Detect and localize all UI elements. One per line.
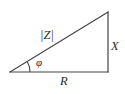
horizontal-leg-label: R — [59, 74, 68, 88]
impedance-triangle-figure: |Z| X R φ — [0, 0, 125, 94]
vertical-leg-label: X — [110, 39, 120, 53]
angle-label: φ — [36, 56, 42, 68]
angle-arc — [27, 62, 30, 72]
impedance-triangle-svg: |Z| X R φ — [0, 0, 125, 94]
hypotenuse-line — [10, 12, 108, 72]
hypotenuse-label: |Z| — [40, 28, 54, 42]
